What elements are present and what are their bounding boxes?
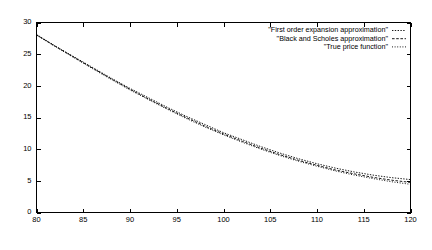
x-tick-label: 105 xyxy=(264,215,277,224)
x-tick-label: 120 xyxy=(404,215,417,224)
y-tick-label: 0 xyxy=(27,207,31,216)
y-tick-label: 30 xyxy=(23,17,31,26)
y-tick-label: 25 xyxy=(23,49,31,58)
legend-label-2: "True price function" xyxy=(324,42,389,51)
x-tick-label: 110 xyxy=(311,215,323,224)
plot-canvas: 051015202530 80859095100105110115120 "Fi… xyxy=(0,0,432,250)
x-tick-label: 115 xyxy=(358,215,370,224)
chart-figure: 051015202530 80859095100105110115120 "Fi… xyxy=(0,0,432,250)
y-tick-label: 10 xyxy=(23,144,31,153)
x-tick-label: 80 xyxy=(32,215,40,224)
x-tick-label: 100 xyxy=(217,215,230,224)
y-tick-label: 20 xyxy=(23,81,31,90)
x-tick-label: 90 xyxy=(126,215,134,224)
y-tick-label: 5 xyxy=(27,176,31,185)
y-tick-label: 15 xyxy=(23,112,31,121)
x-tick-label: 95 xyxy=(173,215,181,224)
x-tick-label: 85 xyxy=(79,215,87,224)
